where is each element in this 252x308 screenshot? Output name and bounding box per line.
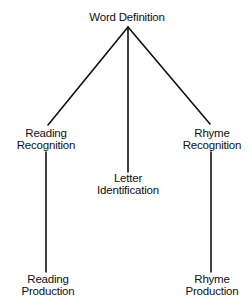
node-label-line-2: Recognition [183, 139, 242, 151]
diagram-edges [0, 0, 252, 308]
node-label-line-1: Rhyme [183, 127, 242, 139]
node-rhyme-production: Rhyme Production [186, 273, 239, 297]
node-word-definition: Word Definition [89, 11, 164, 23]
edge-root-to-rhyme-recognition [128, 27, 210, 124]
node-label-line-1: Reading [17, 127, 76, 139]
node-letter-identification: Letter Identification [97, 172, 159, 196]
tree-diagram: Word Definition Reading Recognition Lett… [0, 0, 252, 308]
node-label-line-1: Reading [22, 273, 75, 285]
node-label-line-2: Production [22, 285, 75, 297]
node-label-line-1: Rhyme [186, 273, 239, 285]
node-rhyme-recognition: Rhyme Recognition [183, 127, 242, 151]
node-reading-recognition: Reading Recognition [17, 127, 76, 151]
node-label-line-1: Letter [97, 172, 159, 184]
node-label: Word Definition [89, 11, 164, 23]
node-label-line-2: Production [186, 285, 239, 297]
edge-root-to-reading-recognition [48, 27, 128, 125]
node-label-line-2: Identification [97, 184, 159, 196]
node-label-line-2: Recognition [17, 139, 76, 151]
node-reading-production: Reading Production [22, 273, 75, 297]
